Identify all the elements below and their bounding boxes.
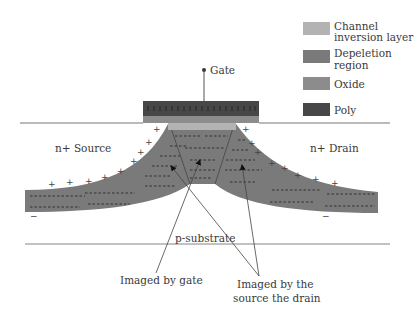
- svg-text:+: +: [294, 170, 302, 180]
- legend-label-depletion-1: Depeletion: [334, 47, 392, 59]
- svg-text:+: +: [331, 178, 339, 188]
- mosfet-diagram: Channel inversion layer Depeletion regio…: [0, 0, 417, 315]
- svg-text:+: +: [117, 166, 125, 176]
- channel-inversion-layer: [168, 123, 236, 130]
- legend-label-channel-2: inversion layer: [334, 31, 414, 43]
- svg-text:+: +: [268, 158, 276, 168]
- legend-swatch-oxide: [303, 77, 330, 90]
- svg-text:+: +: [145, 137, 153, 147]
- svg-text:+: +: [137, 147, 145, 157]
- gate-oxide: [143, 116, 259, 123]
- svg-text:+: +: [281, 163, 289, 173]
- depletion-region: [25, 124, 378, 213]
- svg-text:+: +: [153, 124, 161, 134]
- legend-label-poly: Poly: [334, 104, 356, 116]
- negative-charge-right: −: [322, 211, 330, 221]
- svg-text:+: +: [66, 177, 74, 187]
- substrate-label: p-substrate: [175, 232, 235, 244]
- legend-label-depletion-2: region: [334, 59, 369, 71]
- gate-label: Gate: [210, 64, 235, 76]
- legend-swatch-depletion: [303, 50, 330, 63]
- negative-charge-left: −: [30, 211, 38, 221]
- svg-text:+: +: [130, 156, 138, 166]
- legend-swatch-channel: [303, 22, 330, 35]
- imaged-by-sd-label-2: source the drain: [233, 292, 321, 304]
- legend-swatch-poly: [303, 103, 330, 116]
- drain-label: n+ Drain: [310, 142, 359, 154]
- svg-text:+: +: [48, 179, 56, 189]
- svg-text:+: +: [312, 174, 320, 184]
- svg-text:+: +: [85, 176, 93, 186]
- imaged-by-gate-label: Imaged by gate: [120, 274, 203, 286]
- source-label: n+ Source: [55, 142, 111, 154]
- svg-text:+: +: [254, 147, 262, 157]
- imaged-by-sd-label-1: Imaged by the: [237, 278, 314, 290]
- svg-text:+: +: [242, 124, 250, 134]
- legend: Channel inversion layer Depeletion regio…: [303, 20, 414, 116]
- svg-text:+: +: [101, 172, 109, 182]
- legend-label-oxide: Oxide: [334, 78, 365, 90]
